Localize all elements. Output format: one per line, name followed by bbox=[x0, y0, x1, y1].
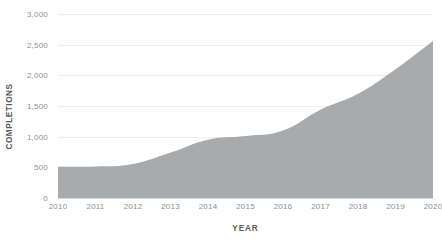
y-tick-label-500: 500 bbox=[34, 163, 48, 172]
x-tick-label-2017: 2017 bbox=[311, 202, 330, 211]
x-tick-label-2013: 2013 bbox=[161, 202, 180, 211]
x-tick-label-2019: 2019 bbox=[386, 202, 405, 211]
x-tick-label-2010: 2010 bbox=[49, 202, 68, 211]
x-tick-label-2012: 2012 bbox=[124, 202, 143, 211]
y-axis-tick-labels: 05001,0001,5002,0002,5003,000 bbox=[0, 14, 54, 198]
x-tick-label-2020: 2020 bbox=[424, 202, 442, 211]
x-tick-label-2011: 2011 bbox=[86, 202, 104, 211]
x-axis-title: YEAR bbox=[58, 224, 433, 233]
y-tick-label-0: 0 bbox=[43, 194, 48, 203]
area-fill-path bbox=[58, 41, 433, 198]
y-tick-label-2000: 2,000 bbox=[27, 71, 48, 80]
x-axis-title-label: YEAR bbox=[232, 224, 258, 233]
x-tick-label-2015: 2015 bbox=[236, 202, 255, 211]
y-tick-label-1500: 1,500 bbox=[27, 102, 48, 111]
y-tick-label-1000: 1,000 bbox=[27, 132, 48, 141]
y-tick-label-3000: 3,000 bbox=[27, 10, 48, 19]
x-axis-tick-labels: 2010201120122013201420152016201720182019… bbox=[58, 202, 433, 216]
area-series-completions bbox=[58, 14, 433, 198]
x-tick-label-2018: 2018 bbox=[349, 202, 368, 211]
y-tick-label-2500: 2,500 bbox=[27, 40, 48, 49]
x-tick-label-2016: 2016 bbox=[274, 202, 293, 211]
plot-area bbox=[58, 14, 433, 198]
gridline-0 bbox=[58, 198, 433, 199]
x-tick-label-2014: 2014 bbox=[199, 202, 218, 211]
